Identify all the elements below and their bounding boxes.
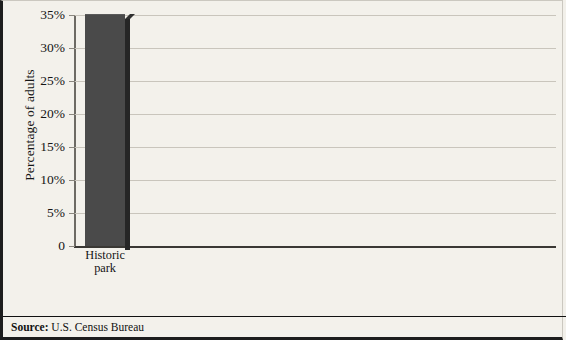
source-label: Source: bbox=[11, 321, 48, 333]
source-note: Source: U.S. Census Bureau bbox=[11, 321, 144, 333]
gridline bbox=[75, 114, 556, 115]
gridline bbox=[75, 147, 556, 148]
x-axis-line bbox=[74, 246, 556, 248]
gridline bbox=[75, 15, 556, 16]
source-divider bbox=[3, 316, 566, 317]
y-axis-tick-label: 0 bbox=[3, 238, 65, 254]
x-axis-label-line: park bbox=[71, 262, 139, 275]
y-axis-tick bbox=[69, 15, 75, 16]
y-axis-tick-label: 25% bbox=[3, 73, 65, 89]
y-axis-tick bbox=[69, 81, 75, 82]
y-axis-tick-label: 5% bbox=[3, 205, 65, 221]
y-axis-tick bbox=[69, 48, 75, 49]
category-icon-row bbox=[75, 289, 556, 333]
y-axis-tick-label: 35% bbox=[3, 7, 65, 23]
x-axis-category-labels: Historicpark bbox=[75, 249, 556, 289]
bar-group bbox=[85, 15, 125, 246]
y-axis-tick-label: 10% bbox=[3, 172, 65, 188]
y-axis-tick-label: 20% bbox=[3, 106, 65, 122]
x-axis-label-line: Historic bbox=[71, 249, 139, 262]
y-axis-tick bbox=[69, 147, 75, 148]
gridline bbox=[75, 81, 556, 82]
y-axis-tick-label: 30% bbox=[3, 40, 65, 56]
y-axis-tick-labels: 05%10%15%20%25%30%35% bbox=[3, 1, 67, 261]
y-axis-tick bbox=[69, 114, 75, 115]
gridline bbox=[75, 180, 556, 181]
gridline bbox=[75, 213, 556, 214]
y-axis-tick bbox=[69, 213, 75, 214]
y-axis-tick bbox=[69, 246, 75, 247]
y-axis-tick bbox=[69, 180, 75, 181]
y-axis-tick-label: 15% bbox=[3, 139, 65, 155]
source-text: U.S. Census Bureau bbox=[51, 321, 144, 333]
plot-area bbox=[75, 15, 556, 246]
gridline bbox=[75, 48, 556, 49]
bar bbox=[85, 14, 125, 246]
x-axis-category-label: Historicpark bbox=[71, 249, 139, 274]
